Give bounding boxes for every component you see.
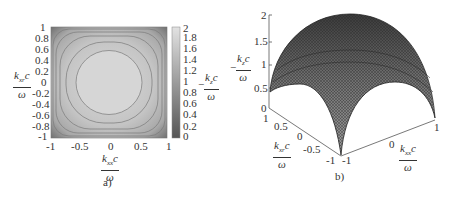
x-tick: 1 [166, 141, 172, 152]
left-axis-tick: 1 [263, 113, 269, 124]
left-axis-tick: -0.5 [303, 144, 320, 155]
x-tick: -0.5 [71, 141, 88, 152]
left-axis-label: kxrc ω [273, 140, 291, 170]
x-tick: -1 [46, 141, 55, 152]
z-tick: 2 [261, 10, 267, 21]
panel-b-caption: b) [335, 170, 344, 182]
right-axis-tick: 0 [389, 139, 395, 150]
left-axis-tick: 0.5 [274, 121, 288, 132]
panel-a-contour-plot: 1 0.8 0.6 0.4 0.2 0 -0.2 -0.4 -0.6 -0.8 … [0, 0, 225, 198]
panel-a-caption: a) [103, 176, 112, 188]
z-tick: 1.5 [254, 36, 268, 47]
colorbar-tick: 0 [183, 131, 189, 142]
left-axis-tick: -1 [326, 155, 335, 166]
right-axis-tick: -1 [342, 155, 351, 166]
z-tick: 1 [261, 59, 267, 70]
z-tick: 0.5 [254, 83, 268, 94]
z-axis-label: kzc ω [236, 53, 251, 83]
x-tick: 0 [108, 141, 114, 152]
panel-b-surface-plot: 2 1.5 1 0.5 0 1 0.5 0 -0.5 -1 -1 0 1 − k… [225, 0, 449, 198]
y-axis-label: kxrc ω [13, 70, 31, 100]
left-axis-tick: 0 [297, 131, 303, 142]
right-axis-label: kxxc ω [399, 143, 417, 173]
right-axis-tick: 1 [434, 122, 440, 133]
x-tick: 0.5 [134, 141, 148, 152]
colorbar-tick: 0.4 [183, 109, 197, 120]
colorbar-label: kzc ω [204, 72, 219, 102]
